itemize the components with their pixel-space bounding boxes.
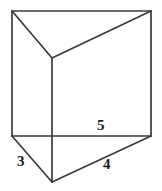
edge-label-4: 4 (103, 157, 111, 172)
edge-label-3: 3 (17, 154, 25, 169)
edge-label-5: 5 (97, 118, 105, 133)
triangular-prism-figure: 3 5 4 (0, 0, 162, 191)
